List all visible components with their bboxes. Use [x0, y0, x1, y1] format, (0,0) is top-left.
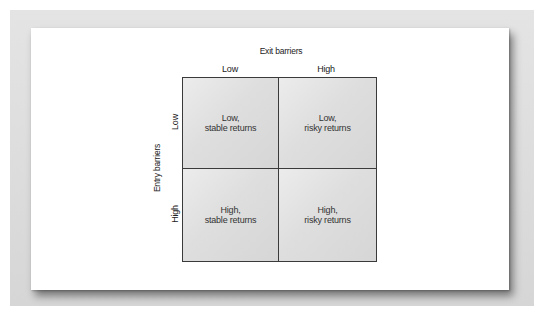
matrix-grid: Low, stable returns Low, risky returns H… — [182, 77, 377, 262]
cell-line1: Low, — [205, 113, 257, 123]
cell-line2: risky returns — [304, 123, 350, 133]
cell-low-entry-low-exit: Low, stable returns — [183, 78, 279, 169]
x-axis-title: Exit barriers — [260, 46, 303, 56]
cell-line2: stable returns — [205, 123, 257, 133]
cell-low-entry-high-exit: Low, risky returns — [279, 78, 376, 169]
cell-high-entry-high-exit: High, risky returns — [279, 169, 376, 261]
cell-high-entry-low-exit: High, stable returns — [183, 169, 279, 261]
cell-line1: Low, — [304, 113, 350, 123]
row-label-high: High — [170, 205, 180, 223]
cell-line2: risky returns — [304, 215, 350, 225]
cell-line2: stable returns — [205, 215, 257, 225]
cell-line1: High, — [205, 205, 257, 215]
y-axis-title: Entry barriers — [152, 144, 162, 192]
column-label-low: Low — [222, 64, 238, 74]
cell-line1: High, — [304, 205, 350, 215]
column-label-high: High — [317, 64, 335, 74]
row-label-low: Low — [170, 114, 180, 130]
